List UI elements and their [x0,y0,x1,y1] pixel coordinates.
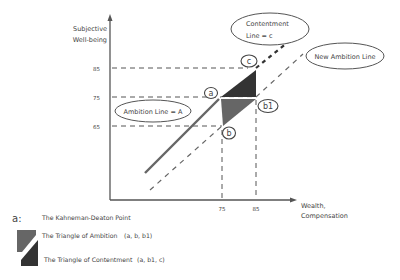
new-ambition-line-callout: New Ambition Line [306,43,384,69]
legend-point-text: The Kahneman-Deaton Point [41,214,131,221]
svg-text:Line = c: Line = c [246,32,273,40]
new-ambition-line [256,54,303,97]
y-axis-label-line1: Subjective [73,25,107,33]
ambition-contentment-diagram: Subjective Well-being Wealth, Compensati… [0,0,400,280]
legend-point-symbol: a: [12,213,22,224]
ambition-line-callout: Ambition Line = A [115,100,191,122]
contentment-line-callout: Contentment Line = c [231,13,309,45]
legend-ambition-text: The Triangle of Ambition [41,232,118,240]
legend-contentment-vertices: (a, b1, c) [137,256,165,263]
point-b1: b1 [258,100,278,113]
y-tick-85: 85 [93,66,100,72]
legend: a: The Kahneman-Deaton Point The Triangl… [12,213,165,266]
triangle-of-ambition [221,99,256,126]
x-tick-75: 75 [219,206,226,212]
svg-text:New Ambition Line: New Ambition Line [314,53,375,61]
svg-text:Contentment: Contentment [246,20,289,28]
x-tick-85: 85 [253,206,260,212]
y-axis-label-line2: Well-being [73,36,107,44]
point-a: a [205,88,218,99]
x-axis-label-line2: Compensation [301,212,348,220]
y-tick-65: 65 [93,124,100,130]
y-axis-arrow [108,14,113,21]
triangle-of-contentment [221,70,256,97]
x-axis-label-line1: Wealth, [301,202,326,210]
svg-text:a: a [209,89,214,98]
legend-ambition-vertices: (a, b, b1) [124,232,152,239]
y-tick-75: 75 [93,95,100,101]
legend-contentment-text: The Triangle of Contentment [43,256,133,264]
svg-text:c: c [247,57,251,66]
svg-text:Ambition Line = A: Ambition Line = A [124,108,183,116]
svg-text:b1: b1 [263,102,273,111]
point-c: c [241,55,257,67]
x-axis-arrow [290,198,297,203]
point-b: b [223,127,236,139]
svg-text:b: b [226,129,231,138]
